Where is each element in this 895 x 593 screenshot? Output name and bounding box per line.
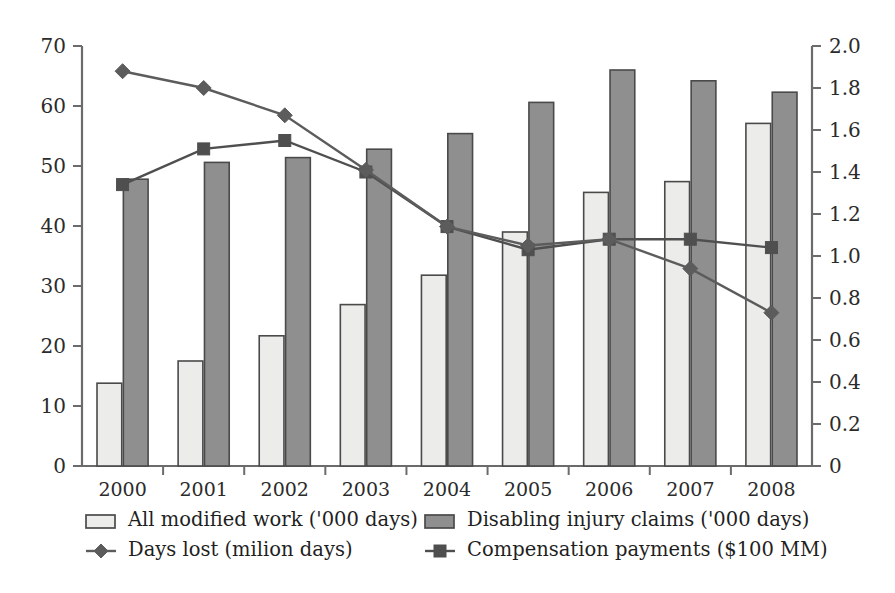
days-lost-marker [277,108,292,123]
right-axis-tick-label: 0 [829,454,842,478]
chart-canvas: 010203040506070 00.20.40.60.81.01.21.41.… [0,0,895,593]
bar-disabling-injury-claims [610,70,635,466]
dual-axis-combo-chart: 010203040506070 00.20.40.60.81.01.21.41.… [0,0,895,593]
left-axis-tick-label: 60 [41,94,66,118]
legend-item-label: Compensation payments ($100 MM) [467,538,828,561]
legend-item: Compensation payments ($100 MM) [425,538,828,561]
right-axis-tick-label: 0.8 [829,286,861,310]
legend-item: All modified work ('000 days) [86,508,418,531]
right-axis-tick-labels: 00.20.40.60.81.01.21.41.61.82.0 [829,34,861,478]
days-lost-marker [115,64,130,79]
bar-all-modified-work [259,336,284,466]
left-axis-tick-label: 50 [41,154,66,178]
right-axis-tick-label: 1.0 [829,244,861,268]
bar-disabling-injury-claims [448,134,473,466]
bar-all-modified-work [746,123,771,466]
bar-disabling-injury-claims [772,92,797,466]
bar-all-modified-work [178,361,203,466]
legend-item: Days lost (milion days) [86,538,353,561]
bar-series-all-modified-work [97,123,771,466]
legend-item: Disabling injury claims ('000 days) [425,508,809,531]
right-axis-tick-label: 2.0 [829,34,861,58]
left-axis-tick-label: 20 [41,334,66,358]
compensation-payments-marker [117,179,129,191]
category-axis-label: 2008 [747,478,795,500]
category-axis-label: 2000 [98,478,146,500]
category-axis-label: 2005 [504,478,552,500]
legend-item-label: Days lost (milion days) [128,538,353,561]
left-axis-tick-label: 70 [41,34,66,58]
category-axis-label: 2004 [423,478,471,500]
legend-item-label: Disabling injury claims ('000 days) [467,508,809,531]
right-axis-tick-label: 1.6 [829,118,861,142]
bar-all-modified-work [340,305,365,466]
legend-swatch-bar-light [86,515,115,528]
compensation-payments-marker [765,242,777,254]
bar-disabling-injury-claims [367,149,392,466]
legend-swatch-bar-dark [425,515,454,528]
right-axis-tick-label: 1.4 [829,160,861,184]
left-axis-tick-label: 40 [41,214,66,238]
category-axis-label: 2007 [666,478,714,500]
right-axis-tick-label: 1.2 [829,202,861,226]
bar-all-modified-work [503,232,528,466]
bar-disabling-injury-claims [204,162,229,466]
category-axis-labels: 200020012002200320042005200620072008 [98,478,795,500]
compensation-payments-marker [198,143,210,155]
category-axis-label: 2001 [179,478,227,500]
legend-marker-square [434,545,446,557]
legend-marker-diamond [94,544,108,558]
right-axis-tick-label: 0.6 [829,328,861,352]
compensation-payments-marker [684,233,696,245]
days-lost-marker [196,81,211,96]
bar-disabling-injury-claims [529,102,554,466]
right-axis-tick-label: 0.2 [829,412,861,436]
category-axis-label: 2003 [342,478,390,500]
left-axis-tick-label: 10 [41,394,66,418]
compensation-payments-marker [279,135,291,147]
left-axis-tick-label: 30 [41,274,66,298]
right-axis-tick-label: 0.4 [829,370,861,394]
bar-all-modified-work [97,383,122,466]
right-axis-tick-label: 1.8 [829,76,861,100]
bar-disabling-injury-claims [123,179,148,466]
category-axis-label: 2002 [261,478,309,500]
bar-all-modified-work [421,275,446,466]
left-axis-tick-label: 0 [53,454,66,478]
bar-disabling-injury-claims [286,158,311,466]
chart-page: 010203040506070 00.20.40.60.81.01.21.41.… [0,0,895,593]
legend-item-label: All modified work ('000 days) [127,508,418,531]
category-axis-label: 2006 [585,478,633,500]
chart-legend: All modified work ('000 days)Disabling i… [86,508,828,561]
left-axis-tick-labels: 010203040506070 [41,34,66,478]
bar-all-modified-work [665,182,690,466]
bar-disabling-injury-claims [691,81,716,466]
